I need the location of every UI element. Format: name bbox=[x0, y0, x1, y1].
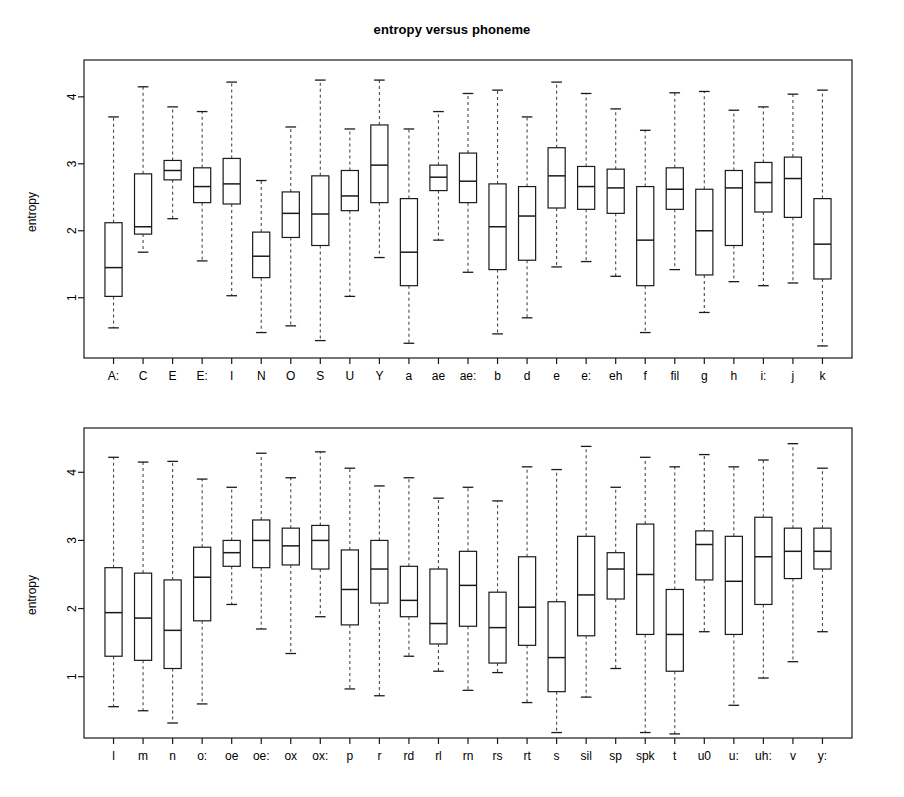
x-tick-label-i:: i: bbox=[760, 369, 766, 383]
x-tick-label-b: b bbox=[494, 369, 501, 383]
x-tick-label-O: O bbox=[286, 369, 295, 383]
boxplot-ox: bbox=[312, 452, 329, 617]
boxplot-eh bbox=[607, 109, 624, 276]
boxplot-ox bbox=[282, 478, 299, 654]
box-iqr bbox=[282, 192, 299, 238]
x-tick-label-rl: rl bbox=[435, 749, 442, 763]
y-tick-label-2: 2 bbox=[65, 605, 79, 612]
x-tick-label-fil: fil bbox=[670, 369, 679, 383]
box-iqr bbox=[400, 566, 417, 616]
x-tick-label-rd: rd bbox=[404, 749, 415, 763]
box-iqr bbox=[578, 166, 595, 209]
box-iqr bbox=[371, 125, 388, 203]
boxplot-sp bbox=[607, 487, 624, 668]
boxplot-s bbox=[548, 470, 565, 733]
boxplot-rs bbox=[489, 501, 506, 673]
x-tick-label-eh: eh bbox=[609, 369, 622, 383]
x-tick-label-U: U bbox=[346, 369, 355, 383]
x-tick-label-Y: Y bbox=[375, 369, 383, 383]
y-tick-label-2: 2 bbox=[65, 227, 79, 234]
y-tick-label-1: 1 bbox=[65, 673, 79, 680]
boxplot-rt bbox=[519, 467, 536, 703]
boxplot-m bbox=[135, 462, 152, 711]
boxplot-i: bbox=[755, 107, 772, 286]
box-iqr bbox=[430, 569, 447, 644]
boxplot-S bbox=[312, 80, 329, 340]
boxplot-rl bbox=[430, 498, 447, 671]
x-tick-label-h: h bbox=[731, 369, 738, 383]
x-tick-label-s: s bbox=[554, 749, 560, 763]
box-iqr bbox=[194, 547, 211, 621]
x-tick-label-uh:: uh: bbox=[755, 749, 772, 763]
boxplot-d bbox=[519, 117, 536, 318]
box-iqr bbox=[164, 580, 181, 669]
boxplot-svg-bottom: 1234lmno:oeoe:oxox:prrdrlrnrsrtssilspspk… bbox=[0, 390, 904, 790]
x-tick-label-u:: u: bbox=[729, 749, 739, 763]
x-tick-label-I: I bbox=[230, 369, 233, 383]
x-tick-label-ox:: ox: bbox=[312, 749, 328, 763]
boxplot-uh: bbox=[755, 460, 772, 678]
box-iqr bbox=[105, 223, 122, 297]
boxplot-rn bbox=[459, 487, 476, 690]
boxplot-j bbox=[784, 94, 801, 283]
boxplot-A: bbox=[105, 117, 122, 328]
x-tick-label-k: k bbox=[819, 369, 826, 383]
boxplot-e: bbox=[578, 93, 595, 261]
boxplot-E bbox=[164, 107, 181, 219]
x-tick-label-y:: y: bbox=[818, 749, 827, 763]
x-tick-label-n: n bbox=[169, 749, 176, 763]
boxplot-panel-bottom: 1234lmno:oeoe:oxox:prrdrlrnrsrtssilspspk… bbox=[0, 390, 904, 790]
box-iqr bbox=[637, 524, 654, 634]
boxplot-oe bbox=[223, 487, 240, 604]
box-iqr bbox=[519, 557, 536, 646]
y-tick-label-4: 4 bbox=[65, 93, 79, 100]
x-tick-label-a: a bbox=[406, 369, 413, 383]
box-iqr bbox=[725, 536, 742, 634]
y-tick-label-1: 1 bbox=[65, 294, 79, 301]
boxplot-sil bbox=[578, 446, 595, 697]
x-tick-label-sil: sil bbox=[580, 749, 591, 763]
boxplot-h bbox=[725, 110, 742, 281]
boxplot-rd bbox=[400, 478, 417, 657]
x-tick-label-N: N bbox=[257, 369, 266, 383]
boxplot-v bbox=[784, 444, 801, 662]
boxplot-U bbox=[341, 129, 358, 296]
x-tick-label-rn: rn bbox=[463, 749, 474, 763]
x-tick-label-f: f bbox=[644, 369, 648, 383]
boxplot-ae: bbox=[459, 93, 476, 272]
box-iqr bbox=[637, 187, 654, 286]
boxplot-oe: bbox=[253, 453, 270, 629]
box-iqr bbox=[135, 573, 152, 660]
x-tick-label-j: j bbox=[791, 369, 795, 383]
boxplot-n bbox=[164, 461, 181, 723]
box-iqr bbox=[400, 199, 417, 286]
box-iqr bbox=[814, 199, 831, 279]
boxplot-b bbox=[489, 90, 506, 334]
box-iqr bbox=[312, 525, 329, 569]
box-iqr bbox=[814, 528, 831, 569]
x-tick-label-g: g bbox=[701, 369, 708, 383]
boxplot-fil bbox=[666, 93, 683, 270]
boxplot-ae bbox=[430, 112, 447, 241]
boxplot-u0 bbox=[696, 455, 713, 632]
x-tick-label-oe:: oe: bbox=[253, 749, 270, 763]
x-tick-label-u0: u0 bbox=[698, 749, 712, 763]
x-tick-label-E:: E: bbox=[196, 369, 207, 383]
boxplot-l bbox=[105, 457, 122, 706]
boxplot-r bbox=[371, 486, 388, 696]
y-tick-label-3: 3 bbox=[65, 537, 79, 544]
x-tick-label-rt: rt bbox=[523, 749, 531, 763]
x-tick-label-e: e bbox=[553, 369, 560, 383]
x-tick-label-spk: spk bbox=[636, 749, 656, 763]
boxplot-k bbox=[814, 90, 831, 346]
box-iqr bbox=[194, 168, 211, 203]
x-tick-label-S: S bbox=[316, 369, 324, 383]
x-tick-label-sp: sp bbox=[609, 749, 622, 763]
boxplot-f bbox=[637, 130, 654, 332]
x-tick-label-oe: oe bbox=[225, 749, 239, 763]
y-tick-label-3: 3 bbox=[65, 160, 79, 167]
x-tick-label-e:: e: bbox=[581, 369, 591, 383]
boxplot-svg-top: 1234A:CEE:INOSUYaaeae:bdee:ehffilghi:jk bbox=[0, 0, 904, 400]
box-iqr bbox=[755, 517, 772, 604]
boxplot-g bbox=[696, 91, 713, 312]
